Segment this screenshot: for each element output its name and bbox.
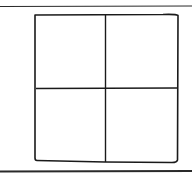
horizontal-divider <box>36 88 177 89</box>
bottom-rule <box>0 171 192 172</box>
grid-diagram <box>0 0 192 173</box>
cell-top-right <box>106 16 177 88</box>
top-rule <box>0 6 192 7</box>
cell-top-left <box>36 16 105 88</box>
cell-bottom-right <box>106 89 177 161</box>
cell-bottom-left <box>36 89 105 161</box>
